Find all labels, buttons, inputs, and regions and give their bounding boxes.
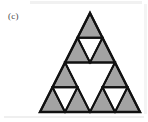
figure-panel-c: (c)	[0, 0, 148, 122]
filled-triangle-top-apex	[78, 13, 103, 38]
sierpinski-triangle-figure	[0, 0, 148, 122]
